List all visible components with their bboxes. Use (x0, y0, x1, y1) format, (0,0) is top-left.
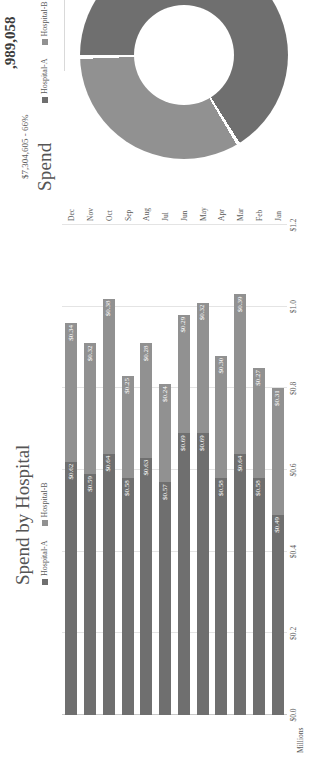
bar-segment[interactable]: $0.34 (65, 323, 77, 462)
legend-label: Hospital-B (40, 1, 49, 36)
legend-swatch-icon (42, 579, 48, 585)
value-axis-tick: $0.8 (289, 382, 298, 395)
bar-value-label: $0.69 (180, 435, 187, 451)
bar-value-label: $0.62 (68, 464, 75, 480)
bar-value-label: $0.59 (87, 476, 94, 492)
bar-segment[interactable]: $0.31 (272, 388, 284, 515)
bar-row[interactable]: $0.59$0.32 (82, 225, 98, 715)
bar-value-label: $0.64 (237, 456, 244, 472)
bar-value-label: $0.63 (143, 460, 150, 476)
donut-graphic (80, 0, 288, 159)
bar-value-label: $0.27 (255, 370, 262, 386)
bar-segment[interactable]: $0.58 (253, 478, 265, 715)
bar-plot-area: $0.62$0.34$0.59$0.32$0.64$0.38$0.58$0.25… (62, 225, 287, 715)
bar-segment[interactable]: $0.28 (140, 343, 152, 457)
legend-item-hospital-b[interactable]: Hospital-B (40, 1, 49, 45)
bar-row[interactable]: $0.49$0.31 (269, 225, 285, 715)
donut-legend: Hospital-A Hospital-B (40, 1, 49, 103)
donut-hole (134, 5, 234, 105)
bar-value-label: $0.31 (274, 390, 281, 406)
bar-value-label: $0.29 (180, 317, 187, 333)
bar-segment[interactable]: $0.58 (215, 478, 227, 715)
report-page: ,989,058 Spend Hospital-A Hospital-B $7,… (0, 0, 317, 761)
bar-segment[interactable]: $0.64 (234, 454, 246, 715)
bar-segment[interactable]: $0.64 (103, 454, 115, 715)
bar-value-label: $0.58 (124, 480, 131, 496)
bar-row[interactable]: $0.57$0.24 (157, 225, 173, 715)
value-axis-tick: $0.4 (289, 545, 298, 558)
bar-value-label: $0.49 (274, 517, 281, 533)
bar-row[interactable]: $0.63$0.28 (138, 225, 154, 715)
value-axis: $0.0$0.2$0.4$0.6$0.8$1.0$1.2 (289, 225, 305, 715)
bar-value-label: $0.58 (218, 480, 225, 496)
legend-swatch-icon (42, 520, 48, 526)
bar-value-label: $0.32 (199, 305, 206, 321)
bar-segment[interactable]: $0.58 (122, 478, 134, 715)
bar-row[interactable]: $0.58$0.30 (213, 225, 229, 715)
value-axis-tick: $0.0 (289, 708, 298, 721)
donut-slice-callout: $7,304,605 - 66% (20, 115, 31, 180)
bar-value-label: $0.38 (105, 301, 112, 317)
bar-segment[interactable]: $0.49 (272, 515, 284, 715)
bar-series-container: $0.62$0.34$0.59$0.32$0.64$0.38$0.58$0.25… (62, 225, 287, 715)
bar-value-label: $0.34 (68, 325, 75, 341)
legend-item-hospital-b[interactable]: Hospital-B (40, 482, 49, 526)
legend-label: Hospital-A (40, 540, 49, 576)
legend-swatch-icon (42, 39, 48, 45)
value-axis-tick: $1.2 (289, 218, 298, 231)
value-axis-tick: $1.0 (289, 300, 298, 313)
value-axis-tick: $0.2 (289, 627, 298, 640)
legend-label: Hospital-B (40, 482, 49, 517)
bar-value-label: $0.28 (143, 345, 150, 361)
bar-value-label: $0.24 (162, 386, 169, 402)
bar-value-label: $0.64 (105, 456, 112, 472)
bar-segment[interactable]: $0.30 (215, 356, 227, 479)
legend-item-hospital-a[interactable]: Hospital-A (40, 58, 49, 103)
bar-segment[interactable]: $0.57 (159, 482, 171, 715)
donut-chart-title: Spend (34, 143, 56, 192)
bar-value-label: $0.25 (124, 378, 131, 394)
bar-value-label: $0.39 (237, 296, 244, 312)
bar-segment[interactable]: $0.25 (122, 376, 134, 478)
legend-swatch-icon (42, 97, 48, 103)
bar-row[interactable]: $0.64$0.39 (232, 225, 248, 715)
axis-unit-label: Millions (296, 728, 305, 753)
bar-segment[interactable]: $0.39 (234, 294, 246, 453)
bar-chart-visual[interactable]: Spend by Hospital Hospital-A Hospital-B … (0, 213, 317, 761)
bar-value-label: $0.30 (218, 358, 225, 374)
bar-row[interactable]: $0.58$0.25 (119, 225, 135, 715)
bar-segment[interactable]: $0.62 (65, 462, 77, 715)
bar-segment[interactable]: $0.27 (253, 368, 265, 478)
bar-segment[interactable]: $0.32 (197, 303, 209, 434)
legend-label: Hospital-A (40, 58, 49, 94)
bar-legend: Hospital-A Hospital-B (40, 482, 49, 585)
value-axis-tick: $0.6 (289, 463, 298, 476)
bar-row[interactable]: $0.58$0.27 (251, 225, 267, 715)
bar-chart-title: Spend by Hospital (12, 445, 34, 585)
bar-value-label: $0.57 (162, 484, 169, 500)
bar-row[interactable]: $0.64$0.38 (101, 225, 117, 715)
bar-value-label: $0.32 (87, 345, 94, 361)
bar-segment[interactable]: $0.69 (197, 433, 209, 715)
donut-chart-visual[interactable]: Spend Hospital-A Hospital-B $7,304,605 -… (0, 1, 317, 201)
bar-row[interactable]: $0.69$0.32 (194, 225, 210, 715)
bar-row[interactable]: $0.62$0.34 (63, 225, 79, 715)
bar-segment[interactable]: $0.59 (84, 474, 96, 715)
bar-segment[interactable]: $0.29 (178, 315, 190, 433)
bar-value-label: $0.58 (255, 480, 262, 496)
bar-segment[interactable]: $0.32 (84, 343, 96, 474)
bar-segment[interactable]: $0.38 (103, 299, 115, 454)
bar-segment[interactable]: $0.69 (178, 433, 190, 715)
bar-segment[interactable]: $0.63 (140, 458, 152, 715)
bar-row[interactable]: $0.69$0.29 (176, 225, 192, 715)
legend-item-hospital-a[interactable]: Hospital-A (40, 540, 49, 585)
bar-value-label: $0.69 (199, 435, 206, 451)
bar-segment[interactable]: $0.24 (159, 384, 171, 482)
